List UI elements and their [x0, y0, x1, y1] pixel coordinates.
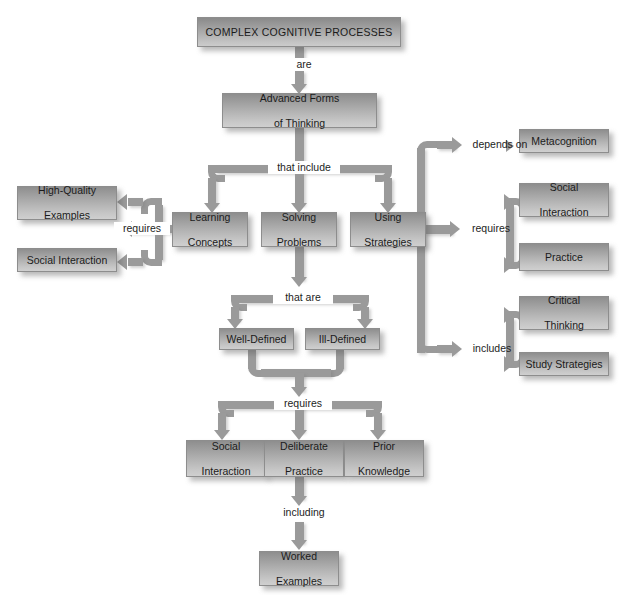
edge-label-are: are	[282, 58, 326, 71]
arrowhead-to-social-interaction-left	[117, 254, 127, 270]
node-social-interaction-left-label: Social Interaction	[24, 254, 111, 267]
diagram-canvas: COMPLEX COGNITIVE PROCESSES are Advanced…	[0, 0, 622, 595]
edge-requires-left-elbow-bottom	[141, 250, 162, 266]
edge-label-includes: includes	[463, 342, 521, 355]
node-learning-concepts-label: Learning Concepts	[182, 211, 238, 249]
edge-leg-solving-problems	[295, 170, 304, 205]
node-using-strategies: Using Strategies	[350, 212, 426, 247]
arrowhead-solving-down	[291, 277, 307, 287]
node-deliberate-practice-label: Deliberate Practice	[274, 440, 334, 478]
arrowhead-including-down	[291, 496, 307, 506]
node-well-defined: Well-Defined	[219, 328, 294, 350]
edge-requires-left-elbow-top	[141, 198, 162, 214]
node-critical-thinking: Critical Thinking	[519, 296, 609, 330]
arrowhead-to-prior-knowledge	[370, 430, 386, 440]
node-social-interaction-left: Social Interaction	[17, 248, 117, 272]
arrowhead-to-high-quality-examples	[117, 194, 127, 210]
edge-requires-left-arm-bottom	[128, 258, 143, 266]
node-high-quality-examples: High-Quality Examples	[17, 186, 117, 220]
node-social-interaction-right: Social Interaction	[519, 183, 609, 217]
arrowhead-merge-down	[291, 387, 307, 397]
edge-using-strategies-to-requires	[424, 225, 452, 234]
node-critical-thinking-label: Critical Thinking	[538, 294, 590, 332]
edge-depends-on-elbow	[417, 141, 439, 158]
node-ill-defined: Ill-Defined	[305, 328, 380, 350]
edge-label-requires-right: requires	[461, 222, 521, 235]
node-worked-examples-label: Worked Examples	[270, 550, 328, 588]
edge-label-that-are: that are	[273, 291, 333, 304]
arrowhead-to-practice	[504, 257, 514, 273]
node-deliberate-practice: Deliberate Practice	[264, 440, 344, 477]
node-solving-problems: Solving Problems	[261, 212, 337, 247]
edge-advanced-to-bus-stem	[295, 128, 304, 165]
node-using-strategies-label: Using Strategies	[358, 211, 417, 249]
arrowhead-to-worked-examples	[291, 540, 307, 550]
arrowhead-includes	[452, 341, 462, 357]
node-practice: Practice	[519, 243, 609, 271]
node-advanced-forms-of-thinking-label: Advanced Forms of Thinking	[254, 92, 345, 130]
node-social-interaction-bottom: Social Interaction	[186, 440, 266, 477]
node-complex-cognitive-processes: COMPLEX COGNITIVE PROCESSES	[197, 17, 401, 47]
node-social-interaction-bottom-label: Social Interaction	[195, 440, 256, 478]
node-study-strategies-label: Study Strategies	[522, 358, 605, 371]
edge-label-that-include: that include	[268, 161, 340, 174]
edge-label-requires-bottom: requires	[274, 397, 332, 410]
arrowhead-to-social-interaction-bottom	[214, 430, 230, 440]
edge-includes-elbow	[417, 336, 439, 353]
edge-label-including: including	[272, 506, 336, 519]
arrowhead-to-deliberate-practice	[291, 430, 307, 440]
edge-label-depends-on: depends on	[463, 138, 537, 151]
figure-caption-sliver	[4, 1, 304, 9]
node-study-strategies: Study Strategies	[519, 352, 609, 376]
arrowhead-depends-on	[452, 137, 462, 153]
node-social-interaction-right-label: Social Interaction	[533, 181, 594, 219]
node-ill-defined-label: Ill-Defined	[316, 333, 369, 346]
node-prior-knowledge-label: Prior Knowledge	[352, 440, 416, 478]
node-prior-knowledge: Prior Knowledge	[344, 440, 424, 477]
edge-solving-to-that-are-stem	[295, 247, 304, 280]
node-advanced-forms-of-thinking: Advanced Forms of Thinking	[222, 93, 377, 128]
node-complex-cognitive-processes-label: COMPLEX COGNITIVE PROCESSES	[202, 26, 395, 39]
edge-using-strategies-trunk	[417, 148, 425, 353]
arrowhead-to-social-interaction-right	[504, 194, 514, 210]
node-practice-label: Practice	[542, 251, 586, 264]
edge-label-requires-left: requires	[114, 222, 170, 235]
arrowhead-to-study-strategies	[504, 356, 514, 372]
node-metacognition-label: Metacognition	[528, 135, 599, 148]
arrowhead-to-critical-thinking	[504, 307, 514, 323]
node-well-defined-label: Well-Defined	[224, 333, 290, 346]
arrowhead-requires-right	[450, 221, 460, 237]
edge-requires-left-arm-top	[128, 198, 143, 206]
node-solving-problems-label: Solving Problems	[271, 211, 327, 249]
node-worked-examples: Worked Examples	[259, 551, 339, 586]
node-high-quality-examples-label: High-Quality Examples	[32, 184, 102, 222]
edge-leg-learning-concepts	[208, 178, 216, 205]
edge-leg-using-strategies	[384, 178, 392, 205]
node-learning-concepts: Learning Concepts	[172, 212, 248, 247]
